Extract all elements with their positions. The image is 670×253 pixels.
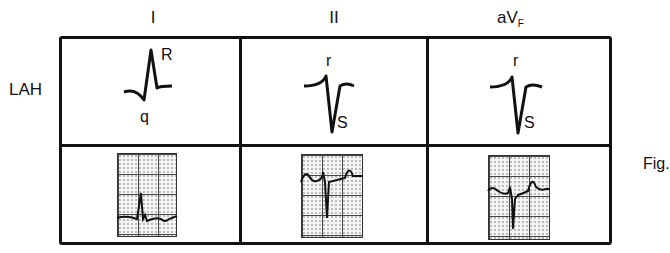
wave-label-r-avf: r — [513, 52, 518, 70]
column-divider-1 — [239, 36, 242, 245]
wave-label-q: q — [140, 108, 149, 126]
lead-header-II: II — [304, 8, 364, 28]
column-divider-2 — [426, 36, 429, 245]
wave-label-r: r — [326, 52, 331, 70]
lead-header-aVF: aVF — [497, 8, 524, 29]
lead-header-subscript: F — [518, 18, 524, 29]
lead-header-aV: aV — [497, 8, 518, 27]
schematic-lead-aVF — [488, 73, 548, 133]
figure-caption: Fig. — [643, 155, 670, 173]
ecg-trace-lead-aVF — [488, 155, 550, 240]
ecg-trace-lead-II — [301, 154, 363, 238]
wave-label-S-avf: S — [524, 114, 535, 132]
schematic-lead-II — [302, 72, 362, 132]
row-label-lah: LAH — [9, 80, 42, 100]
wave-label-R: R — [161, 46, 173, 64]
row-divider — [59, 144, 612, 147]
ecg-trace-lead-I — [117, 153, 177, 237]
lead-header-I: I — [123, 8, 183, 28]
wave-label-S: S — [337, 114, 348, 132]
